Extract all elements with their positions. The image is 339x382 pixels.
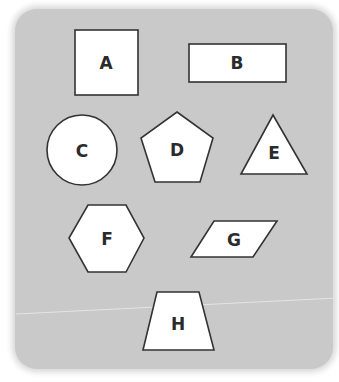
shape-b-label: B xyxy=(231,53,244,73)
shape-g-label: G xyxy=(227,230,241,250)
shape-a-square: A xyxy=(75,30,138,95)
shape-h-trapezoid: H xyxy=(143,292,214,350)
shape-b-rectangle: B xyxy=(189,44,286,82)
shape-d-label: D xyxy=(170,140,184,160)
shape-g-parallelogram: G xyxy=(191,221,277,257)
shape-e-label: E xyxy=(268,143,280,163)
shape-h-label: H xyxy=(171,314,185,334)
shape-c-label: C xyxy=(76,141,88,161)
shape-f-label: F xyxy=(101,229,113,249)
shapes-diagram: A B C D E F G H xyxy=(0,0,339,382)
shape-d-pentagon: D xyxy=(141,112,213,182)
shape-c-circle: C xyxy=(47,115,117,185)
shape-f-hexagon: F xyxy=(69,205,144,272)
shape-e-triangle: E xyxy=(241,115,307,174)
shape-a-label: A xyxy=(99,53,113,73)
